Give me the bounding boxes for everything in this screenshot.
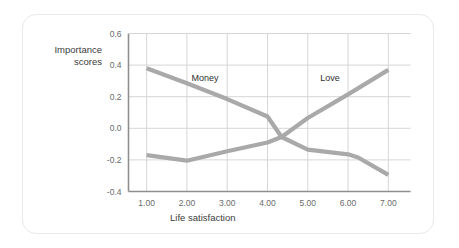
chart-screenshot: Importance scores 0.60.40.20.0-0.2-0.4 1… <box>0 0 459 248</box>
y-tick-label: -0.2 <box>107 155 122 165</box>
x-tick-label: 2.00 <box>179 198 196 208</box>
gridlines-vertical <box>147 34 389 192</box>
x-tick-labels: 1.002.003.004.005.006.007.00 <box>138 198 397 208</box>
gridlines-horizontal <box>129 34 411 192</box>
line-chart-plot: 0.60.40.20.0-0.2-0.4 1.002.003.004.005.0… <box>0 0 459 248</box>
x-tick-label: 4.00 <box>259 198 276 208</box>
series-label-love: Love <box>320 73 340 83</box>
x-tick-label: 7.00 <box>380 198 397 208</box>
y-tick-label: -0.4 <box>107 187 122 197</box>
series-label-money: Money <box>192 73 220 83</box>
y-tick-label: 0.0 <box>110 123 122 133</box>
y-tick-label: 0.4 <box>110 60 122 70</box>
series-inline-labels: MoneyLove <box>192 73 340 83</box>
x-tick-label: 3.00 <box>219 198 236 208</box>
axis-lines <box>129 34 411 192</box>
y-tick-label: 0.2 <box>110 92 122 102</box>
x-tick-label: 6.00 <box>340 198 357 208</box>
y-tick-label: 0.6 <box>110 29 122 39</box>
y-tick-labels: 0.60.40.20.0-0.2-0.4 <box>107 29 122 197</box>
x-tick-label: 5.00 <box>299 198 316 208</box>
x-tick-label: 1.00 <box>138 198 155 208</box>
x-axis-title: Life satisfaction <box>170 212 370 223</box>
